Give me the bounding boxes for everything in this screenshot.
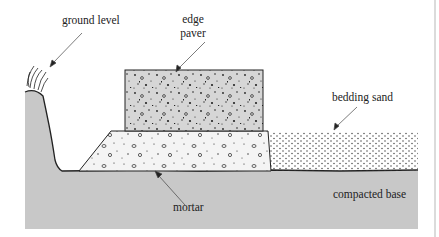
bedding-sand-layer [270, 132, 418, 171]
label-edge-paver-line1: edge [182, 13, 204, 26]
label-edge-paver-line2: paver [180, 27, 206, 40]
label-mortar: mortar [173, 201, 204, 213]
edge-paver [125, 70, 263, 131]
paver-edge-diagram: ground level edge paver bedding sand mor… [0, 0, 439, 237]
grass-icon [27, 66, 48, 92]
label-compacted-base: compacted base [333, 188, 406, 201]
label-bedding-sand: bedding sand [332, 91, 393, 104]
label-ground-level: ground level [62, 14, 120, 27]
mortar-layer [79, 131, 271, 171]
